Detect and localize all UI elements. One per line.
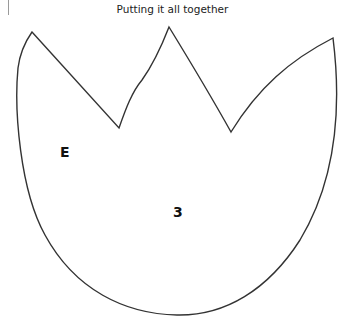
region-label-3: 3	[173, 205, 183, 219]
tulip-outline	[17, 27, 337, 315]
tulip-shape	[0, 0, 345, 324]
region-label-e: E	[60, 145, 70, 159]
